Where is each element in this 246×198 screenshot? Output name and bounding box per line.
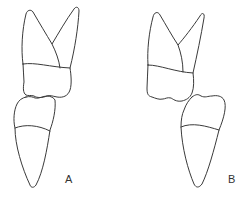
- panel-b-label: B: [228, 174, 235, 185]
- panel-b: [147, 13, 225, 187]
- teeth-diagram: [0, 0, 246, 198]
- panel-a-label: A: [65, 174, 72, 185]
- lower-tooth-a-cej: [15, 126, 50, 131]
- lower-tooth-b-outline: [181, 95, 225, 187]
- upper-tooth-a-root-division: [52, 44, 60, 68]
- upper-tooth-a-outline: [22, 7, 79, 97]
- upper-tooth-b-cej: [148, 65, 193, 73]
- upper-tooth-a-cej: [23, 64, 70, 68]
- panel-a: [14, 7, 79, 187]
- lower-tooth-b-cej: [181, 125, 219, 130]
- lower-tooth-a-outline: [14, 96, 55, 187]
- upper-tooth-b-root-division: [178, 45, 183, 72]
- upper-tooth-b-outline: [147, 13, 204, 102]
